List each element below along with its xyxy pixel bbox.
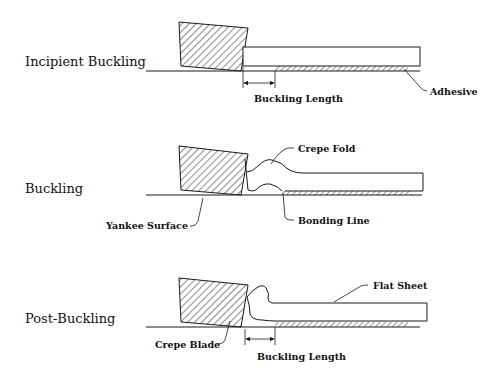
label-yankee-surface: Yankee Surface xyxy=(105,220,188,231)
adhesive-layer xyxy=(275,66,408,71)
label-buckling-length-1: Buckling Length xyxy=(254,93,343,104)
label-adhesive: Adhesive xyxy=(429,86,478,97)
adhesive-layer xyxy=(282,191,412,195)
label-bonding-line: Bonding Line xyxy=(298,215,370,226)
crepe-blade-shape xyxy=(179,278,248,327)
bonding-line-leader xyxy=(283,193,294,220)
crepe-fold-leader xyxy=(271,148,294,164)
panel-buckling: Buckling Crepe Fold Bonding Line Yankee … xyxy=(25,143,423,231)
creping-diagram: Incipient Buckling Buckling Length Adhes… xyxy=(0,0,491,371)
sheet-shape xyxy=(243,47,420,66)
panel-title-post-buckling: Post-Buckling xyxy=(25,311,115,326)
sheet-bottom-contour xyxy=(245,159,282,191)
panel-post-buckling: Post-Buckling Buckling Length Flat Sheet… xyxy=(25,278,428,362)
crepe-blade-shape xyxy=(179,146,248,195)
crepe-blade-shape xyxy=(179,22,248,71)
sheet-bottom-contour xyxy=(247,297,275,321)
flat-sheet-leader xyxy=(334,285,368,302)
label-flat-sheet: Flat Sheet xyxy=(373,280,428,291)
adhesive-leader xyxy=(404,69,427,91)
panel-title-incipient: Incipient Buckling xyxy=(25,54,146,69)
panel-title-buckling: Buckling xyxy=(25,181,83,196)
panel-incipient-buckling: Incipient Buckling Buckling Length Adhes… xyxy=(25,22,478,104)
label-buckling-length-2: Buckling Length xyxy=(257,351,346,362)
sheet-top-contour xyxy=(247,160,423,191)
adhesive-layer xyxy=(275,322,408,327)
yankee-surface-leader xyxy=(190,198,203,226)
label-crepe-blade: Crepe Blade xyxy=(155,339,220,350)
sheet-top-contour xyxy=(247,286,427,321)
label-crepe-fold: Crepe Fold xyxy=(298,143,356,154)
